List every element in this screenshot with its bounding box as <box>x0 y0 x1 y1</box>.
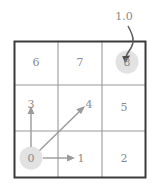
cell-label-3: 3 <box>28 98 35 111</box>
cell-label-5: 5 <box>121 101 128 114</box>
cell-label-1: 1 <box>78 152 85 165</box>
transition-arrow-up <box>28 106 35 147</box>
cell-label-0: 0 <box>28 152 35 165</box>
transition-arrow-right <box>43 155 75 162</box>
cell-label-7: 7 <box>77 56 84 69</box>
value-annotation-label: 1.0 <box>115 10 133 23</box>
cell-label-4: 4 <box>86 98 93 111</box>
cell-label-2: 2 <box>121 152 128 165</box>
gridworld-diagram: 6 7 8 3 4 5 0 1 2 1.0 <box>0 0 156 190</box>
transition-arrow-diagonal <box>40 106 86 151</box>
figure-canvas: 6 7 8 3 4 5 0 1 2 1.0 <box>0 0 156 190</box>
cell-label-6: 6 <box>33 56 40 69</box>
cell-label-8: 8 <box>124 56 131 69</box>
